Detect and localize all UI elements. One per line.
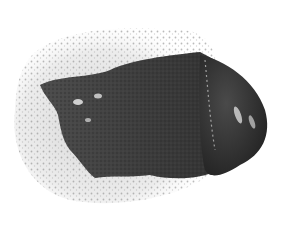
glossy-blob xyxy=(199,55,267,175)
product-texture-photo: Swatch of dark grey cosmetic mask textur… xyxy=(0,0,290,228)
texture-smear-illustration xyxy=(0,0,290,228)
